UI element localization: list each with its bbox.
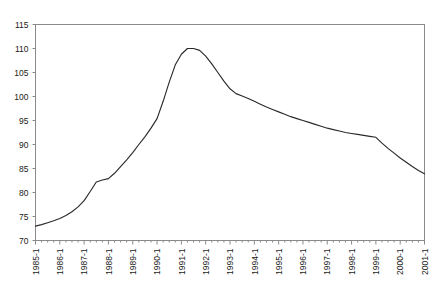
x-tick-label: 1996-1: [298, 248, 308, 275]
x-tick-label: 1998-1: [347, 248, 357, 275]
y-tick-label: 80: [19, 188, 29, 198]
x-tick-label: 1995-1: [274, 248, 284, 275]
x-tick-label: 1988-1: [104, 248, 114, 275]
x-tick-label: 1993-1: [225, 248, 235, 275]
y-tick-label: 105: [14, 68, 28, 78]
y-tick-label: 90: [19, 140, 29, 150]
y-tick-label: 115: [15, 20, 29, 30]
x-tick-label: 1991-1: [177, 248, 187, 275]
x-tick-label: 1992-1: [201, 248, 211, 275]
x-tick-label: 1987-1: [79, 248, 89, 275]
x-tick-label: 1999-1: [371, 248, 381, 275]
x-tick-label: 1997-1: [322, 248, 332, 275]
x-axis-tick-labels: 1985-11986-11987-11988-11989-11990-11991…: [31, 248, 430, 275]
x-tick-label: 1989-1: [128, 248, 138, 275]
plot-frame: [36, 25, 425, 241]
y-axis-tick-labels: 707580859095100105110115: [14, 20, 28, 246]
line-chart: 707580859095100105110115 1985-11986-1198…: [0, 0, 443, 296]
x-tick-label: 1986-1: [55, 248, 65, 275]
y-tick-label: 110: [15, 44, 29, 54]
y-tick-label: 75: [19, 212, 29, 222]
x-tick-label: 1990-1: [152, 248, 162, 275]
x-axis-ticks: [36, 241, 425, 245]
chart-container: 707580859095100105110115 1985-11986-1198…: [0, 0, 443, 296]
y-tick-label: 70: [19, 236, 29, 246]
x-tick-label: 1994-1: [250, 248, 260, 275]
x-tick-label: 2000-1: [395, 248, 405, 275]
data-series-line: [36, 49, 425, 227]
y-tick-label: 95: [19, 116, 29, 126]
y-tick-label: 85: [19, 164, 29, 174]
x-tick-label: 2001-1: [420, 248, 430, 275]
y-tick-label: 100: [14, 92, 28, 102]
x-tick-label: 1985-1: [31, 248, 41, 275]
